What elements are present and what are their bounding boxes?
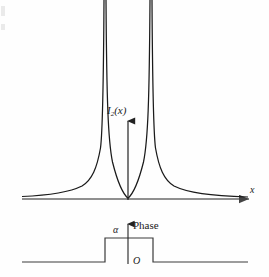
curve-left-branch (22, 0, 104, 197)
curve-right-inner-wall (128, 0, 150, 198)
figure-svg (0, 0, 269, 277)
curve-right-branch (152, 0, 248, 197)
x-axis-label: x (250, 184, 254, 195)
intensity-argument: (x) (114, 104, 126, 116)
figure-container: I2(x) x Phase α O (0, 0, 269, 277)
intensity-label: I2(x) (107, 104, 126, 118)
phase-axis-label: Phase (133, 219, 159, 231)
alpha-label: α (113, 224, 118, 235)
origin-label: O (133, 255, 140, 266)
curve-left-inner-wall (106, 0, 128, 198)
